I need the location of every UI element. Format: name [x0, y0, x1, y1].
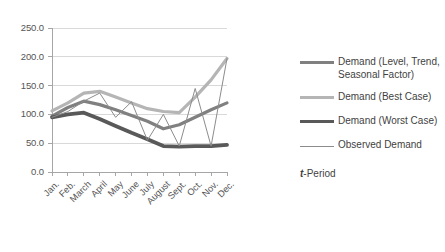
y-axis-tick-label: 250.0	[0, 22, 44, 33]
legend-item[interactable]: Demand (Worst Case)	[300, 115, 445, 129]
y-axis-tick-label: 200.0	[0, 51, 44, 62]
y-axis-tick-label: 100.0	[0, 108, 44, 119]
y-axis-tick-label: 50.0	[0, 137, 44, 148]
line-chart: 0.050.0100.0150.0200.0250.0 Jan.Feb.Marc…	[0, 0, 445, 252]
legend-item[interactable]: Observed Demand	[300, 139, 445, 153]
legend-item[interactable]: Demand (Best Case)	[300, 91, 445, 105]
legend-item-label: Demand (Level, Trend, Seasonal Factor)	[338, 56, 442, 81]
legend-color-swatch	[300, 115, 334, 129]
chart-legend: Demand (Level, Trend, Seasonal Factor)De…	[300, 56, 445, 163]
legend-item-label: Demand (Best Case)	[338, 91, 431, 104]
legend-color-swatch	[300, 56, 334, 70]
legend-item-label: Demand (Worst Case)	[338, 115, 437, 128]
legend-item[interactable]: Demand (Level, Trend, Seasonal Factor)	[300, 56, 445, 81]
y-axis-tick-label: 0.0	[0, 166, 44, 177]
x-axis-title: t-Period	[300, 168, 336, 179]
x-axis-title-rest: -Period	[303, 168, 335, 179]
y-axis-tick-label: 150.0	[0, 80, 44, 91]
legend-color-swatch	[300, 91, 334, 105]
legend-color-swatch	[300, 139, 334, 153]
legend-item-label: Observed Demand	[338, 139, 422, 152]
